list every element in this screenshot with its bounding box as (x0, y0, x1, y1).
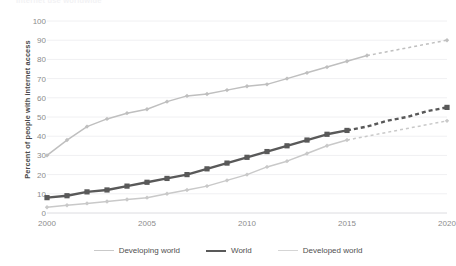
data-point-marker (365, 53, 369, 57)
data-point-marker (445, 119, 449, 123)
legend-swatch-2 (278, 250, 298, 251)
legend-swatch-1 (206, 250, 226, 252)
data-point-marker (184, 172, 189, 177)
legend-item-developing-world[interactable]: Developing world (94, 246, 180, 255)
data-point-marker (125, 197, 129, 201)
data-point-marker (264, 149, 269, 154)
data-point-marker (125, 111, 129, 115)
data-point-marker (324, 132, 329, 137)
legend-label: Developed world (303, 246, 363, 255)
data-point-marker (145, 107, 149, 111)
legend-item-developed-world[interactable]: Developed world (278, 246, 363, 255)
data-point-marker (285, 159, 289, 163)
data-point-marker (325, 144, 329, 148)
series-line-solid (47, 140, 347, 207)
data-point-marker (165, 192, 169, 196)
data-point-marker (84, 189, 89, 194)
data-point-marker (265, 82, 269, 86)
series-line-solid (47, 56, 367, 156)
chart-container: Internet use worldwide Percent of people… (0, 0, 456, 266)
data-point-marker (164, 176, 169, 181)
legend-label: Developing world (119, 246, 180, 255)
data-point-marker (284, 143, 289, 148)
series-line-projected (347, 107, 447, 130)
data-point-marker (45, 205, 49, 209)
series-line-projected (367, 40, 447, 55)
data-point-marker (225, 178, 229, 182)
data-point-marker (225, 88, 229, 92)
data-point-marker (345, 138, 349, 142)
data-point-marker (64, 193, 69, 198)
data-point-marker (285, 76, 289, 80)
data-point-marker (325, 65, 329, 69)
legend-item-world[interactable]: World (206, 246, 252, 255)
data-point-marker (444, 105, 449, 110)
data-point-marker (224, 160, 229, 165)
series-line-projected (347, 121, 447, 140)
series-developing-world (45, 119, 449, 210)
data-point-marker (44, 195, 49, 200)
data-point-marker (105, 199, 109, 203)
data-point-marker (204, 166, 209, 171)
data-point-marker (124, 184, 129, 189)
chart-legend: Developing worldWorldDeveloped world (0, 246, 456, 255)
plot-area (0, 0, 456, 266)
data-point-marker (344, 128, 349, 133)
data-point-marker (85, 201, 89, 205)
legend-swatch-0 (94, 250, 114, 251)
data-point-marker (245, 84, 249, 88)
data-point-marker (244, 155, 249, 160)
legend-label: World (231, 246, 252, 255)
data-point-marker (165, 99, 169, 103)
data-point-marker (185, 188, 189, 192)
data-point-marker (205, 92, 209, 96)
data-point-marker (145, 195, 149, 199)
data-point-marker (305, 71, 309, 75)
data-point-marker (104, 187, 109, 192)
data-point-marker (205, 184, 209, 188)
data-point-marker (65, 203, 69, 207)
data-point-marker (144, 180, 149, 185)
data-point-marker (265, 165, 269, 169)
data-point-marker (304, 137, 309, 142)
data-point-marker (445, 38, 449, 42)
data-point-marker (245, 172, 249, 176)
